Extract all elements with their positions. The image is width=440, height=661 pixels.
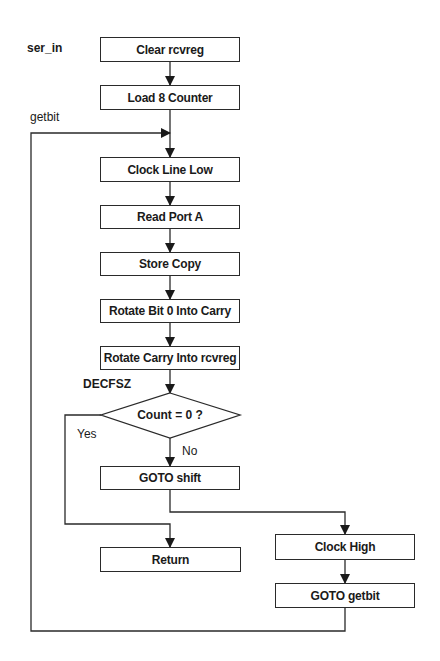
decision-text: Count = 0 ?	[100, 408, 240, 422]
box-store-copy: Store Copy	[100, 252, 240, 276]
box-load-counter: Load 8 Counter	[100, 85, 240, 110]
label-ser-in: ser_in	[27, 41, 62, 55]
box-read-port-a: Read Port A	[100, 205, 240, 229]
box-goto-getbit: GOTO getbit	[275, 583, 415, 608]
box-rotate-carry: Rotate Carry Into rcvreg	[100, 346, 240, 370]
label-no: No	[182, 444, 197, 458]
box-goto-shift: GOTO shift	[100, 466, 240, 490]
label-decfsz: DECFSZ	[83, 377, 131, 391]
label-yes: Yes	[77, 427, 97, 441]
box-clock-high: Clock High	[275, 534, 415, 560]
box-clock-line-low: Clock Line Low	[100, 157, 240, 182]
box-rotate-bit: Rotate Bit 0 Into Carry	[100, 299, 240, 323]
box-return: Return	[100, 547, 241, 572]
box-clear-rcvreg: Clear rcvreg	[100, 37, 240, 62]
label-getbit: getbit	[30, 110, 59, 124]
